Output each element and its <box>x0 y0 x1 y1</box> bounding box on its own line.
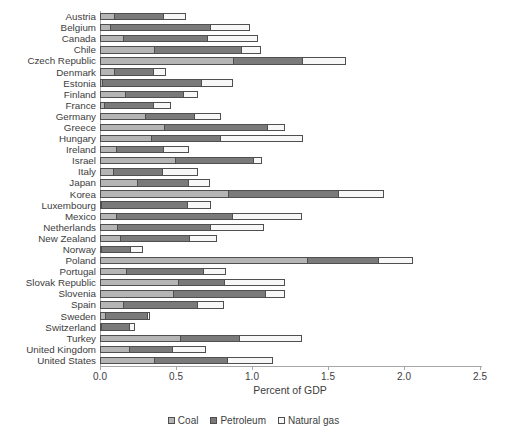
chart-row: Finland <box>0 89 507 100</box>
legend-swatch-icon <box>168 417 175 424</box>
bar-segment-coal <box>100 35 124 42</box>
x-tick-label: 1.0 <box>245 371 259 382</box>
bar-segment-coal <box>100 346 130 353</box>
bar <box>100 201 211 208</box>
x-tick-mark <box>404 367 405 370</box>
bar-segment-coal <box>100 213 117 220</box>
bar-segment-petroleum <box>233 57 303 64</box>
country-label: Czech Republic <box>0 55 100 66</box>
chart-row: Sweden <box>0 311 507 322</box>
chart-row: Italy <box>0 166 507 177</box>
chart-row: Denmark <box>0 66 507 77</box>
bar-segment-natural-gas <box>153 68 167 75</box>
bar-segment-petroleum <box>113 168 163 175</box>
country-label: Netherlands <box>0 222 100 233</box>
chart-row: United Kingdom <box>0 344 507 355</box>
bar-segment-petroleum <box>114 13 164 20</box>
chart-row: Chile <box>0 44 507 55</box>
country-label: Norway <box>0 244 100 255</box>
bar-segment-natural-gas <box>241 46 261 53</box>
bar <box>100 146 189 153</box>
bar-segment-natural-gas <box>172 346 205 353</box>
bar-segment-petroleum <box>175 157 254 164</box>
bar-segment-petroleum <box>101 323 130 330</box>
bar-segment-petroleum <box>104 102 154 109</box>
bar <box>100 235 217 242</box>
bar <box>100 157 262 164</box>
bar <box>100 179 210 186</box>
bar-segment-coal <box>100 224 118 231</box>
legend-label: Natural gas <box>288 415 339 426</box>
x-tick-mark <box>100 367 101 370</box>
country-label: Switzerland <box>0 322 100 333</box>
country-label: Turkey <box>0 333 100 344</box>
bar-segment-natural-gas <box>129 323 135 330</box>
bar-segment-coal <box>100 257 308 264</box>
country-label: Chile <box>0 44 100 55</box>
bar-segment-coal <box>100 357 155 364</box>
bar-segment-natural-gas <box>253 157 262 164</box>
legend-label: Coal <box>178 415 199 426</box>
country-label: Germany <box>0 111 100 122</box>
chart-row: Mexico <box>0 211 507 222</box>
bar-segment-natural-gas <box>207 35 257 42</box>
bar-segment-petroleum <box>154 357 228 364</box>
bar-segment-natural-gas <box>189 235 216 242</box>
bar-segment-coal <box>100 279 179 286</box>
bar-segment-coal <box>100 13 115 20</box>
bar-segment-petroleum <box>178 279 225 286</box>
bar-segment-petroleum <box>123 35 208 42</box>
country-label: Ireland <box>0 144 100 155</box>
bar-segment-coal <box>100 68 115 75</box>
bar-segment-natural-gas <box>302 57 346 64</box>
bar-segment-petroleum <box>101 246 131 253</box>
country-label: Sweden <box>0 311 100 322</box>
stacked-bar-chart: AustriaBelgiumCanadaChileCzech RepublicD… <box>0 0 507 441</box>
country-label: Poland <box>0 255 100 266</box>
legend-item: Coal <box>168 415 199 426</box>
bar-segment-petroleum <box>110 24 212 31</box>
country-label: France <box>0 100 100 111</box>
bar <box>100 113 221 120</box>
bar <box>100 246 143 253</box>
legend-label: Petroleum <box>220 415 266 426</box>
bar-segment-natural-gas <box>232 213 302 220</box>
bar-segment-natural-gas <box>194 113 221 120</box>
chart-row: Germany <box>0 111 507 122</box>
country-label: Greece <box>0 122 100 133</box>
bar <box>100 224 264 231</box>
bar-segment-natural-gas <box>163 13 186 20</box>
country-label: Portugal <box>0 266 100 277</box>
bar <box>100 357 273 364</box>
bar-segment-petroleum <box>228 190 339 197</box>
bar-segment-coal <box>100 124 165 131</box>
bar-segment-natural-gas <box>267 124 285 131</box>
chart-row: Luxembourg <box>0 200 507 211</box>
bar <box>100 279 285 286</box>
bar-segment-coal <box>100 268 127 275</box>
chart-row: Hungary <box>0 133 507 144</box>
chart-row: Portugal <box>0 266 507 277</box>
chart-row: Czech Republic <box>0 55 507 66</box>
country-label: Finland <box>0 89 100 100</box>
bar-segment-natural-gas <box>162 168 198 175</box>
bar <box>100 168 198 175</box>
chart-row: Switzerland <box>0 322 507 333</box>
bar <box>100 102 171 109</box>
bar-segment-coal <box>100 46 155 53</box>
bar-segment-coal <box>100 190 229 197</box>
chart-row: Slovenia <box>0 288 507 299</box>
x-tick-mark <box>176 367 177 370</box>
chart-row: Spain <box>0 299 507 310</box>
bar-segment-natural-gas <box>187 201 211 208</box>
bar <box>100 135 303 142</box>
x-tick-label: 2.5 <box>473 371 487 382</box>
bar-segment-coal <box>100 157 176 164</box>
bar-segment-petroleum <box>117 224 211 231</box>
chart-row: Turkey <box>0 333 507 344</box>
country-label: Estonia <box>0 78 100 89</box>
bar-segment-natural-gas <box>378 257 413 264</box>
bar-segment-petroleum <box>164 124 267 131</box>
bar-segment-petroleum <box>180 335 241 342</box>
bar-segment-natural-gas <box>210 224 263 231</box>
